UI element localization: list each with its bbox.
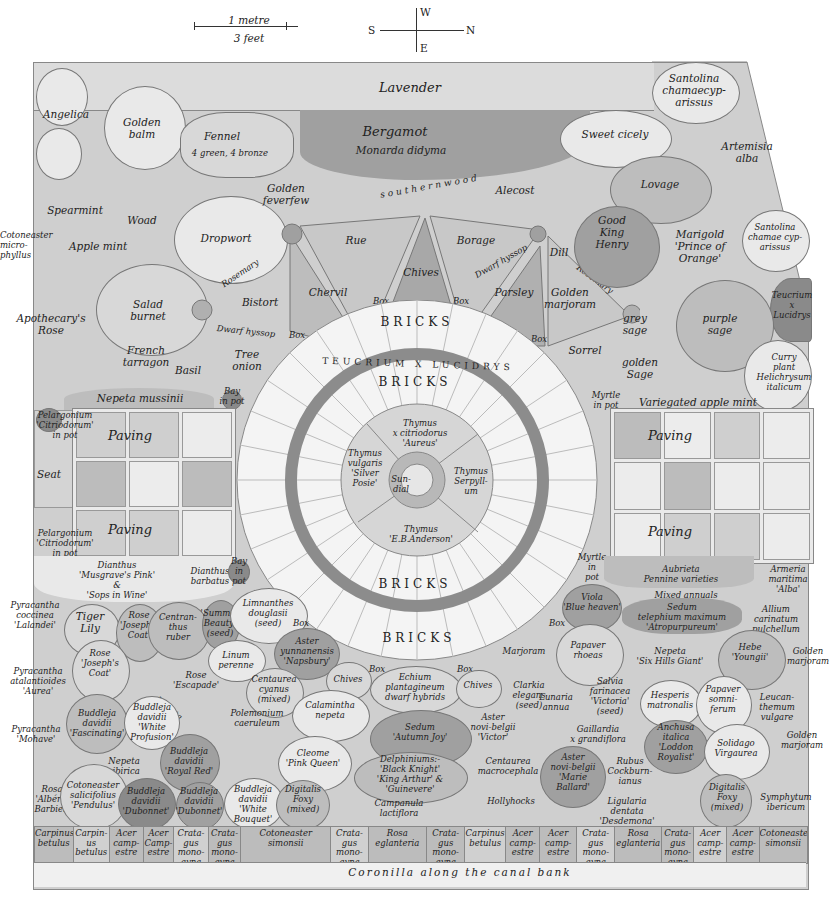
scale-bar-line <box>194 26 298 27</box>
compass-west: W <box>420 6 431 18</box>
hedge-segment: Acer camp- estre <box>694 827 727 863</box>
label-coronilla: Coronilla along the canal bank <box>300 866 620 878</box>
label-paving-left-top: Paving <box>100 428 160 443</box>
label-digitalis-right: Digitalis Foxy (mixed) <box>700 782 754 812</box>
label-echium: Echium plantagineum dwarf hybrids <box>370 672 460 702</box>
hedge-segment: Cotoneaster simonsii <box>241 827 331 863</box>
label-hebe: Hebe 'Youngii' <box>722 642 778 662</box>
compass-ns-line <box>380 30 464 31</box>
hedge-segment: Cotoneaster simonsii <box>760 827 807 863</box>
label-artemisia: Artemisia alba <box>712 140 782 164</box>
label-golden-balm: Golden balm <box>110 116 174 140</box>
hedge-segment: Acer camp- estre <box>540 827 577 863</box>
label-thyme-bottom: Thymus 'E.B.Anderson' <box>376 524 466 544</box>
label-aster-marie-ballard: Aster novi-belgii 'Marie Ballard' <box>540 752 606 792</box>
label-sedum-telephium: Sedum telephium maximum 'Atropurpureum' <box>620 602 744 632</box>
label-pyracantha-atalantioides: Pyracantha atalantioides 'Aurea' <box>0 666 76 696</box>
label-buddleja-dubonnet-2: Buddleja davidii 'Dubonnet' <box>172 786 226 816</box>
scale-metric-label: 1 metre <box>214 14 284 26</box>
label-polemonium: Polemonium caeruleum <box>222 708 292 728</box>
hedge-row: Carpinus betulusCarpin- us betulusAcer c… <box>34 826 808 864</box>
hedge-segment: Crata- gus mono- gyna <box>209 827 242 863</box>
label-santolina-top: Santolina chamaecyp- arissus <box>652 72 736 108</box>
label-bricks-outer-bottom: BRICKS <box>364 632 474 644</box>
scale-imperial-label: 3 feet <box>214 32 284 44</box>
label-basil: Basil <box>168 364 208 376</box>
label-delphiniums: Delphiniums:- 'Black Knight' 'King Arthu… <box>354 754 466 794</box>
hedge-segment: Carpin- us betulus <box>74 827 111 863</box>
hedge-segment: Crata- gus mono- gyna <box>427 827 466 863</box>
label-lovage: Lovage <box>628 178 692 190</box>
label-sundial: Sun- dial <box>386 474 416 494</box>
label-fennel-note: 4 green, 4 bronze <box>182 148 278 158</box>
label-thyme-right: Thymus Serpyll- um <box>446 466 496 496</box>
hedge-segment: Carpinus betulus <box>465 827 505 863</box>
label-chives-sw: Chives <box>326 674 370 684</box>
label-bricks-inner-bottom: BRICKS <box>370 578 460 590</box>
label-bricks-inner-top: BRICKS <box>370 376 460 388</box>
label-paving-left-bottom: Paving <box>100 522 160 537</box>
label-linum: Linum perenne <box>208 650 264 670</box>
hedge-segment: Crata- gus mono- gyna <box>331 827 369 863</box>
label-good-king-henry: Good King Henry <box>582 214 642 250</box>
label-pyracantha-mohave: Pyracantha 'Mohave' <box>0 724 72 744</box>
label-viola: Viola 'Blue heaven' <box>560 592 624 612</box>
label-box-se: Box <box>542 618 572 628</box>
label-sweet-cicely: Sweet cicely <box>570 128 660 140</box>
hedge-segment: Acer camp- estre <box>110 827 144 863</box>
hedge-segment: Acer camp- estre <box>727 827 760 863</box>
label-solidago: Solidago Virgaurea <box>704 738 768 758</box>
hedge-segment: Crata- gus mono- gyna <box>662 827 695 863</box>
label-paving-right-bottom: Paving <box>640 524 700 539</box>
label-buddleja-royal-red: Buddleja davidii 'Royal Red' <box>162 746 216 776</box>
label-chives-sc: Chives <box>456 680 500 690</box>
hedge-segment: Crata- gus mono- gyna <box>174 827 209 863</box>
label-golden-marjoram-bottom: Golden marjoram <box>774 730 830 750</box>
label-fennel: Fennel <box>190 130 254 142</box>
hedge-segment: Crata- gus mono- gyna <box>577 827 616 863</box>
bed-angelica-2 <box>36 128 82 180</box>
label-calamintha: Calamintha nepeta <box>292 700 368 720</box>
label-sedum-autumn-joy: Sedum 'Autumn Joy' <box>370 722 470 742</box>
label-nepeta-mussinii: Nepeta mussinii <box>80 392 200 404</box>
scale-tick <box>194 22 195 30</box>
label-rose-escapade: Rose 'Escapade' <box>166 670 226 690</box>
label-centaurea-macrocephala: Centaurea macrocephala <box>466 756 550 776</box>
label-pelargonium-bottom: Pelargonium 'Citriodorum' in pot <box>30 528 100 558</box>
label-dianthus: Dianthus 'Musgrave's Pink' & 'Sops in Wi… <box>52 560 182 600</box>
label-golden-marjoram-top: Golden marjoram <box>782 646 834 666</box>
label-alecost: Alecost <box>480 184 550 196</box>
label-cotoneaster-microphyllus: Cotoneaster micro- phyllus <box>0 230 52 260</box>
label-gaillardia: Gaillardia x grandiflora <box>558 724 638 744</box>
hedge-segment: Acer Camp- estre <box>144 827 175 863</box>
label-salad-burnet: Salad burnet <box>118 298 178 322</box>
label-pelargonium-top: Pelargonium 'Citriodorum' in pot <box>30 410 100 440</box>
label-bergamot: Bergamot <box>340 124 450 139</box>
label-borage: Borage <box>446 234 506 246</box>
hedge-segment: Rosa eglanteria <box>369 827 427 863</box>
label-bricks-outer-top: BRICKS <box>362 316 472 328</box>
scale-bar: 1 metre 3 feet <box>194 14 298 44</box>
label-golden-sage: golden Sage <box>610 356 670 380</box>
label-salvia: Salvia farinacea 'Victoria' (seed) <box>580 676 640 716</box>
label-marigold: Marigold 'Prince of Orange' <box>660 228 740 264</box>
label-pyracantha-coccinea: Pyracantha coccinea 'Lalandei' <box>0 600 70 630</box>
label-lunaria: Lunaria annua <box>534 692 578 712</box>
compass-east: E <box>420 42 428 54</box>
label-buddleja-fascinating: Buddleja davidii 'Fascinating' <box>66 708 128 738</box>
label-chives-wedge: Chives <box>396 266 446 278</box>
compass-south: S <box>368 24 375 36</box>
label-armeria: Armeria maritima 'Alba' <box>758 564 818 594</box>
compass-rose: W S N E <box>366 4 476 56</box>
hedge-segment: Carpinus betulus <box>35 827 74 863</box>
label-santolina-mid: Santolina chamae cyp- arissus <box>742 222 808 252</box>
label-symphytum: Symphytum ibericum <box>756 792 816 812</box>
label-marjoram: Marjoram <box>494 646 554 656</box>
label-apple-mint: Apple mint <box>58 240 138 252</box>
label-bay-in-pot-2: Bay in pot <box>224 556 254 586</box>
compass-we-line <box>416 8 417 52</box>
label-thyme-left: Thymus vulgaris 'Silver Posie' <box>340 448 390 488</box>
label-hesperis: Hesperis matronalis <box>640 690 700 710</box>
label-thyme-top: Thymus x citriodorus 'Aureus' <box>380 418 460 448</box>
label-papaver-rhoeas: Papaver rhoeas <box>560 640 616 660</box>
